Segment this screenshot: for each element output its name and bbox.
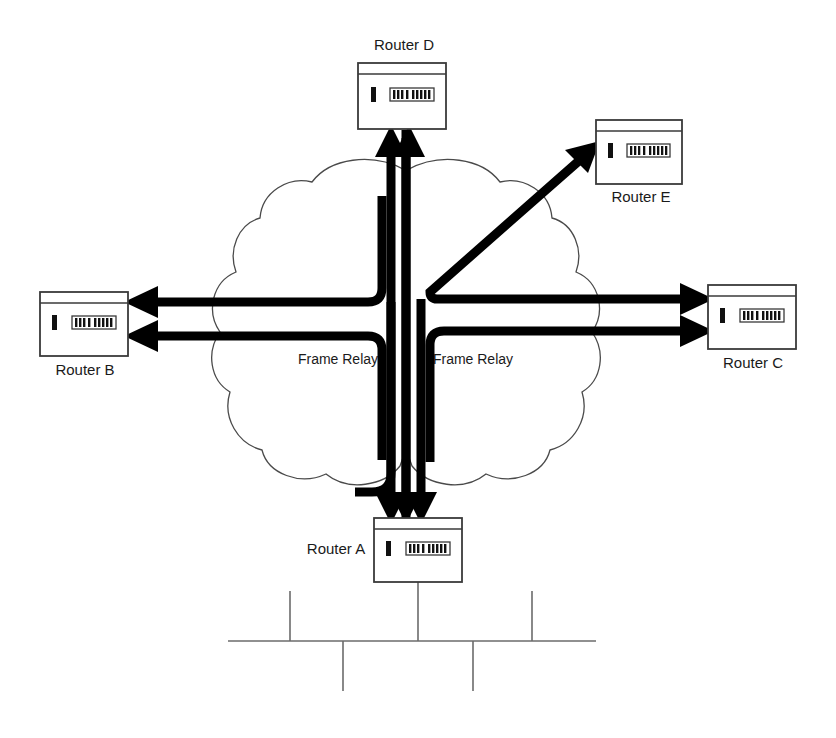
router-a-lan-segment <box>228 582 596 691</box>
cloud-left-outline <box>212 160 405 485</box>
router-a-label: Router A <box>307 540 365 557</box>
router-e-led-icon <box>608 143 613 158</box>
router-d-led-icon <box>371 87 376 102</box>
cloud-label-frame-relay-left: Frame Relay <box>298 351 378 367</box>
cloud-frame-relay-left <box>212 160 405 485</box>
router-d-label: Router D <box>374 36 434 53</box>
cloud-right-outline <box>407 160 600 485</box>
router-b-led-icon <box>52 315 57 330</box>
arrowhead-hub-to-b-upper <box>124 286 158 318</box>
router-b[interactable]: Router B <box>40 292 128 378</box>
arrowhead-hub-to-b-lower <box>124 320 158 352</box>
router-d[interactable]: Router D <box>358 36 446 129</box>
router-e-label: Router E <box>611 188 670 205</box>
cloud-label-frame-relay-right: Frame Relay <box>433 351 513 367</box>
router-c[interactable]: Router C <box>708 285 796 371</box>
network-diagram: Frame Relay Frame Relay <box>0 0 836 738</box>
router-b-label: Router B <box>55 361 114 378</box>
router-e[interactable]: Router E <box>596 120 682 205</box>
router-e-port-panel <box>627 144 670 157</box>
diagram-canvas: Frame Relay Frame Relay <box>0 0 836 738</box>
router-c-led-icon <box>720 308 725 323</box>
router-c-label: Router C <box>723 354 783 371</box>
cloud-frame-relay-right <box>407 160 600 485</box>
router-a-led-icon <box>386 541 391 556</box>
router-a[interactable]: Router A <box>307 518 462 582</box>
